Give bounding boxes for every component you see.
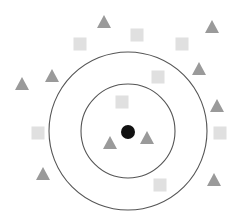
triangle-point bbox=[140, 131, 154, 144]
square-point bbox=[131, 29, 144, 42]
triangle-point bbox=[205, 20, 219, 33]
square-point bbox=[176, 38, 189, 51]
square-point bbox=[32, 127, 45, 140]
square-point bbox=[152, 71, 165, 84]
query-point-group bbox=[121, 125, 135, 139]
triangle-point bbox=[210, 99, 224, 112]
triangle-point bbox=[15, 77, 29, 90]
triangle-point bbox=[45, 69, 59, 82]
square-point bbox=[214, 127, 227, 140]
square-point bbox=[154, 179, 167, 192]
square-point bbox=[116, 96, 129, 109]
knn-diagram bbox=[0, 0, 240, 213]
triangle-point bbox=[97, 15, 111, 28]
triangle-point bbox=[207, 173, 221, 186]
query-point bbox=[121, 125, 135, 139]
triangle-point bbox=[192, 62, 206, 75]
square-point bbox=[74, 38, 87, 51]
triangle-point bbox=[36, 167, 50, 180]
square-class-points bbox=[32, 29, 227, 192]
triangle-point bbox=[103, 136, 117, 149]
